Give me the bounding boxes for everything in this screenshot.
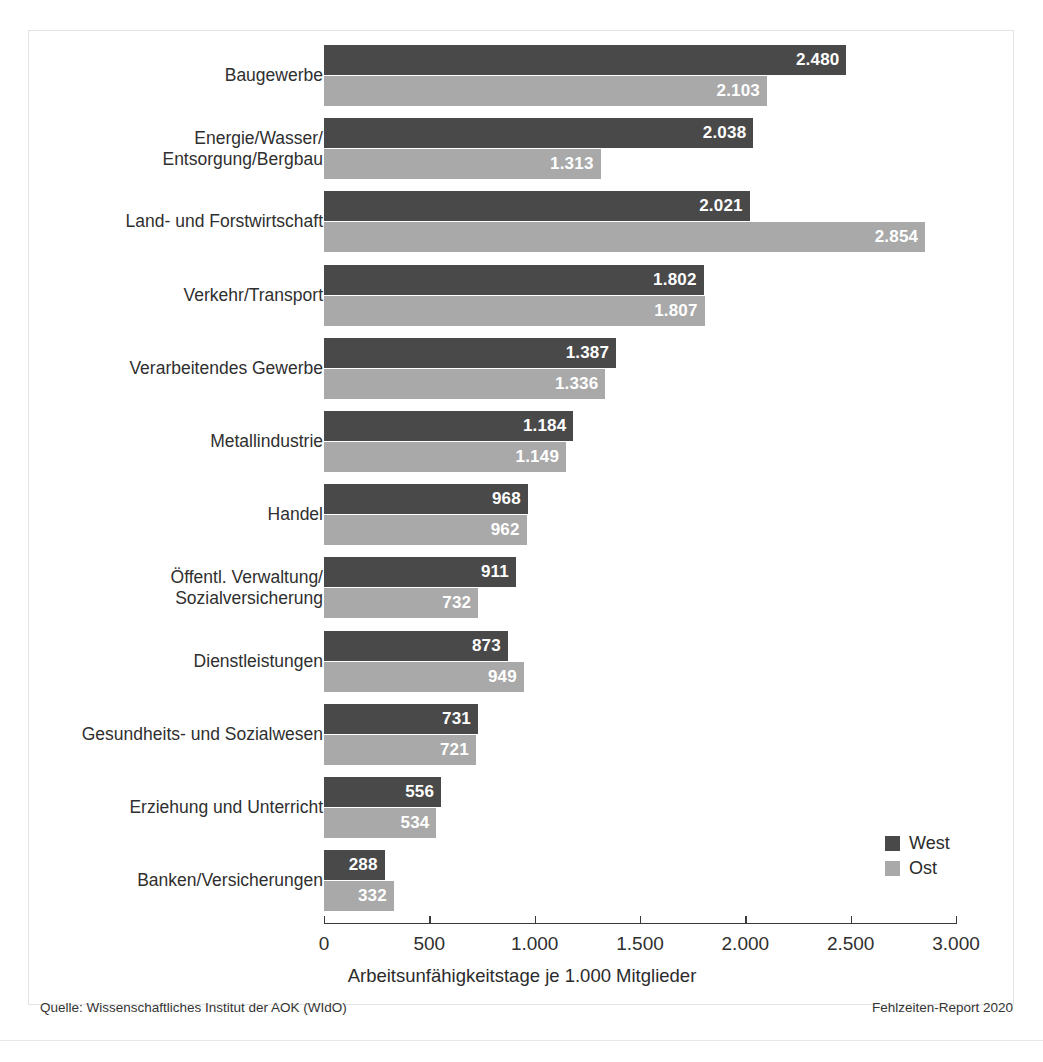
bar-value-label: 968 (492, 489, 521, 509)
legend-label: West (909, 833, 950, 854)
x-axis-tick (429, 916, 430, 924)
chart-row: Banken/Versicherungen288332 (29, 850, 1015, 912)
bar-ost[interactable]: 1.313 (324, 149, 601, 179)
chart-row: Baugewerbe2.4802.103 (29, 45, 1015, 107)
category-label: Land- und Forstwirtschaft (43, 211, 323, 232)
source-note: Quelle: Wissenschaftliches Institut der … (40, 1000, 347, 1015)
bar-value-label: 2.480 (796, 50, 840, 70)
bar-value-label: 949 (488, 666, 517, 686)
category-label: Verkehr/Transport (43, 285, 323, 306)
x-axis-tick (745, 916, 746, 924)
bar-value-label: 288 (349, 855, 378, 875)
bar-ost[interactable]: 2.854 (324, 222, 925, 252)
x-axis-tick-label: 1.500 (616, 933, 664, 955)
legend-label: Ost (909, 858, 937, 879)
x-axis-tick-label: 2.500 (827, 933, 875, 955)
bar-value-label: 1.387 (566, 342, 610, 362)
chart-row: Verkehr/Transport1.8021.807 (29, 265, 1015, 327)
bar-west[interactable]: 556 (324, 777, 441, 807)
category-label: Öffentl. Verwaltung/ Sozialversicherung (43, 567, 323, 609)
bar-value-label: 534 (401, 813, 430, 833)
bar-ost[interactable]: 732 (324, 588, 478, 618)
chart-row: Dienstleistungen873949 (29, 631, 1015, 693)
x-axis-tick-label: 1.000 (511, 933, 559, 955)
chart-legend: WestOst (885, 831, 950, 881)
bar-value-label: 873 (472, 635, 501, 655)
bar-west[interactable]: 911 (324, 557, 516, 587)
bar-value-label: 556 (405, 782, 434, 802)
x-axis-tick (640, 916, 641, 924)
bar-chart-plot: Baugewerbe2.4802.103Energie/Wasser/ Ents… (29, 31, 1015, 1006)
bar-west[interactable]: 2.021 (324, 191, 750, 221)
x-axis-tick (535, 916, 536, 924)
bar-value-label: 731 (442, 708, 471, 728)
bar-west[interactable]: 731 (324, 704, 478, 734)
bar-ost[interactable]: 2.103 (324, 76, 767, 106)
chart-row: Öffentl. Verwaltung/ Sozialversicherung9… (29, 557, 1015, 619)
bar-west[interactable]: 968 (324, 484, 528, 514)
bar-west[interactable]: 2.038 (324, 118, 753, 148)
bar-ost[interactable]: 949 (324, 662, 524, 692)
x-axis-tick (851, 916, 852, 924)
bar-ost[interactable]: 1.807 (324, 296, 705, 326)
chart-figure: Baugewerbe2.4802.103Energie/Wasser/ Ents… (28, 30, 1014, 1005)
bar-value-label: 2.021 (699, 196, 743, 216)
page-hairline (0, 1040, 1043, 1041)
bar-value-label: 732 (442, 593, 471, 613)
chart-row: Energie/Wasser/ Entsorgung/Bergbau2.0381… (29, 118, 1015, 180)
chart-row: Erziehung und Unterricht556534 (29, 777, 1015, 839)
bar-value-label: 2.038 (703, 123, 747, 143)
chart-row: Metallindustrie1.1841.149 (29, 411, 1015, 473)
bar-value-label: 962 (491, 520, 520, 540)
x-axis: 05001.0001.5002.0002.5003.000 (324, 923, 956, 924)
bar-value-label: 2.103 (716, 81, 760, 101)
bar-west[interactable]: 1.387 (324, 338, 616, 368)
bar-west[interactable]: 288 (324, 850, 385, 880)
bar-ost[interactable]: 1.336 (324, 369, 605, 399)
category-label: Energie/Wasser/ Entsorgung/Bergbau (43, 128, 323, 170)
bar-west[interactable]: 1.184 (324, 411, 573, 441)
chart-row: Handel968962 (29, 484, 1015, 546)
x-axis-tick-label: 500 (413, 933, 445, 955)
bar-ost[interactable]: 1.149 (324, 442, 566, 472)
category-label: Dienstleistungen (43, 651, 323, 672)
category-label: Verarbeitendes Gewerbe (43, 358, 323, 379)
bar-value-label: 1.149 (516, 447, 560, 467)
category-label: Metallindustrie (43, 431, 323, 452)
category-label: Handel (43, 504, 323, 525)
legend-swatch-icon (885, 836, 900, 851)
x-axis-title: Arbeitsunfähigkeitstage je 1.000 Mitglie… (29, 965, 1015, 987)
bar-value-label: 1.184 (523, 416, 567, 436)
legend-item-west[interactable]: West (885, 831, 950, 856)
x-axis-tick (956, 916, 957, 924)
bar-value-label: 1.336 (555, 373, 599, 393)
bar-west[interactable]: 873 (324, 631, 508, 661)
bar-ost[interactable]: 534 (324, 808, 436, 838)
bar-value-label: 721 (440, 739, 469, 759)
bar-ost[interactable]: 721 (324, 735, 476, 765)
bar-value-label: 2.854 (875, 227, 919, 247)
category-label: Erziehung und Unterricht (43, 797, 323, 818)
x-axis-tick-label: 0 (319, 933, 330, 955)
bar-ost[interactable]: 332 (324, 881, 394, 911)
bar-west[interactable]: 2.480 (324, 45, 846, 75)
x-axis-tick (324, 916, 325, 924)
category-label: Banken/Versicherungen (43, 870, 323, 891)
x-axis-tick-label: 3.000 (932, 933, 980, 955)
bar-value-label: 911 (481, 562, 509, 582)
legend-swatch-icon (885, 861, 900, 876)
chart-row: Land- und Forstwirtschaft2.0212.854 (29, 191, 1015, 253)
bar-value-label: 1.313 (550, 154, 594, 174)
bar-value-label: 332 (358, 886, 387, 906)
bar-west[interactable]: 1.802 (324, 265, 704, 295)
chart-row: Gesundheits- und Sozialwesen731721 (29, 704, 1015, 766)
report-note: Fehlzeiten-Report 2020 (872, 1000, 1013, 1015)
category-label: Baugewerbe (43, 65, 323, 86)
bar-value-label: 1.807 (654, 300, 698, 320)
bar-value-label: 1.802 (653, 269, 697, 289)
chart-rows: Baugewerbe2.4802.103Energie/Wasser/ Ents… (29, 45, 1015, 923)
bar-ost[interactable]: 962 (324, 515, 527, 545)
chart-row: Verarbeitendes Gewerbe1.3871.336 (29, 338, 1015, 400)
legend-item-ost[interactable]: Ost (885, 856, 950, 881)
category-label: Gesundheits- und Sozialwesen (43, 724, 323, 745)
